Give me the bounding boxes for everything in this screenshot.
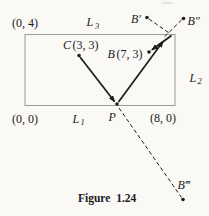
label-point-b-coords: (7, 3) xyxy=(117,47,143,61)
label-point-p: P xyxy=(108,110,117,124)
label-point-b-letter: B xyxy=(108,47,116,61)
label-point-c-coords: (3, 3) xyxy=(73,38,99,52)
point-btripleprime-dot xyxy=(181,198,185,202)
label-point-bdoubleprime: B″ xyxy=(188,14,201,28)
label-corner-0-4: (0, 4) xyxy=(12,16,38,30)
label-point-c-letter: C xyxy=(63,38,72,52)
point-bprime-dot xyxy=(145,16,149,20)
label-l1-letter: L xyxy=(72,112,80,126)
label-l3-subscript: 3 xyxy=(94,21,99,31)
reflection-figure: (0, 4) (0, 0) (8, 0) L 3 L 2 L 1 C (3, 3… xyxy=(0,0,209,216)
scan-artifact xyxy=(161,2,173,5)
figure-caption: Figure 1.24 xyxy=(78,192,137,205)
label-l1-subscript: 1 xyxy=(81,117,85,127)
label-l3-letter: L xyxy=(86,15,94,29)
label-point-bprime: B′ xyxy=(131,12,141,26)
label-corner-8-0: (8, 0) xyxy=(150,111,176,125)
point-bdoubleprime-dot xyxy=(182,17,186,21)
label-l2-letter: L xyxy=(189,71,197,85)
point-b-dot xyxy=(147,50,151,54)
label-point-btripleprime: B‴ xyxy=(178,178,191,192)
point-c-dot xyxy=(77,54,81,58)
label-corner-0-0: (0, 0) xyxy=(12,112,38,126)
point-p-dot xyxy=(115,102,119,106)
